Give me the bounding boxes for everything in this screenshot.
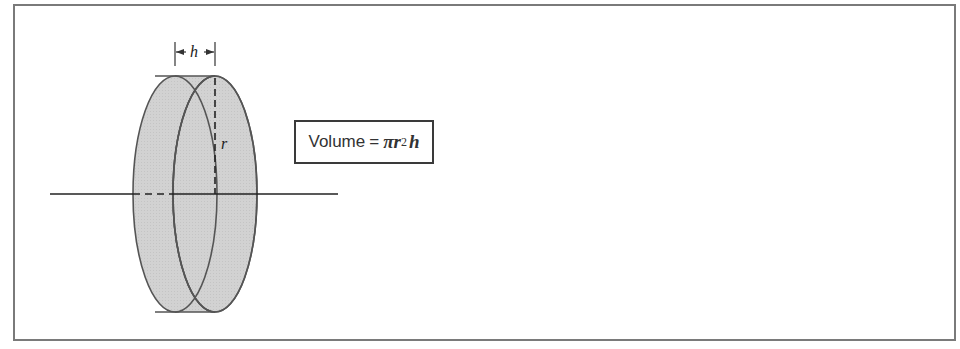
formula-word: Volume <box>309 132 366 152</box>
formula-exponent: 2 <box>401 135 407 150</box>
formula-equals: = <box>369 132 379 152</box>
radius-label: r <box>221 135 228 152</box>
volume-formula-box: Volume = π r 2 h <box>294 120 434 164</box>
formula-pi: π <box>383 131 393 153</box>
height-label: h <box>190 43 198 60</box>
formula-h: h <box>409 131 420 153</box>
formula-r: r <box>394 131 401 153</box>
arrow-right-icon <box>206 49 214 55</box>
arrow-left-icon <box>176 49 184 55</box>
disk-diagram: h r <box>0 0 960 349</box>
